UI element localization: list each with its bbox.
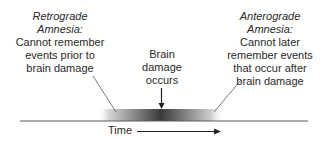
memory-loss-gradient-band (98, 109, 224, 121)
retrograde-desc-line: events prior to (8, 49, 112, 62)
event-label-line: damage (132, 61, 192, 74)
event-label-line: Brain (132, 48, 192, 61)
anterograde-amnesia-label: Anterograde Amnesia: Cannot later rememb… (216, 10, 324, 88)
event-label-line: occurs (132, 74, 192, 87)
anterograde-title-line1: Anterograde (216, 10, 324, 23)
retrograde-leader-line (93, 76, 116, 112)
retrograde-desc-line: brain damage (8, 62, 112, 75)
time-arrow-right-icon (137, 129, 221, 135)
event-arrow-down-icon (159, 88, 165, 109)
anterograde-desc-line: Cannot later (216, 36, 324, 49)
retrograde-amnesia-label: Retrograde Amnesia: Cannot remember even… (8, 10, 112, 75)
anterograde-title-line2: Amnesia: (216, 23, 324, 36)
anterograde-desc-line: brain damage (216, 75, 324, 88)
retrograde-title-line1: Retrograde (8, 10, 112, 23)
retrograde-title-line2: Amnesia: (8, 23, 112, 36)
anterograde-desc-line: remember events (216, 49, 324, 62)
retrograde-desc-line: Cannot remember (8, 36, 112, 49)
time-axis-label: Time (108, 124, 132, 137)
brain-damage-event-label: Brain damage occurs (132, 48, 192, 87)
anterograde-desc-line: that occur after (216, 62, 324, 75)
